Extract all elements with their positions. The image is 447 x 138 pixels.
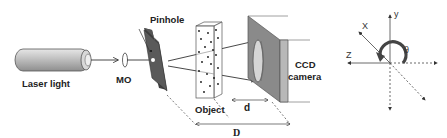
d-large-label: D: [233, 127, 240, 138]
holography-setup-diagram: Laser light MO Pinhole Object: [0, 0, 447, 138]
x-axis-label: X: [362, 21, 368, 31]
dimension-lines: [167, 95, 290, 125]
laser-source: [15, 49, 91, 71]
object-volume: [196, 22, 222, 98]
ccd-label-line2: camera: [288, 71, 322, 82]
ccd-label-line1: CCD: [295, 59, 316, 70]
object-label: Object: [195, 104, 225, 115]
pinhole-plate: [144, 28, 167, 91]
pinhole-label: Pinhole: [150, 14, 184, 25]
theta-label: θ: [404, 45, 409, 55]
y-axis-label: y: [394, 9, 399, 19]
laser-label: Laser light: [22, 78, 71, 89]
d-small-label: d: [244, 102, 250, 113]
mo-label: MO: [116, 74, 131, 85]
theta-arc: [380, 42, 406, 63]
mo-lens: [123, 53, 128, 67]
x-axis: [359, 32, 390, 63]
z-axis-label: Z: [346, 50, 352, 60]
